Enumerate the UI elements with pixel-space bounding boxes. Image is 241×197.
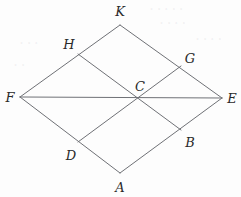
- vertex-label-c: C: [135, 80, 145, 93]
- vertex-label-e: E: [227, 92, 237, 105]
- segment-H-B: [78, 54, 181, 130]
- segments-group: [20, 25, 222, 173]
- vertex-label-g: G: [185, 52, 195, 65]
- vertex-label-h: H: [63, 38, 74, 51]
- geometry-figure: • • • • •• • • •• • •• • • •• • KEAFHGBD…: [0, 0, 241, 197]
- geometry-canvas: [0, 0, 241, 197]
- vertex-label-k: K: [115, 5, 125, 18]
- segment-D-G: [78, 66, 181, 142]
- vertex-label-b: B: [185, 136, 195, 149]
- vertex-label-d: D: [66, 149, 76, 162]
- side-E-A: [120, 98, 222, 173]
- diagonal-F-E: [20, 97, 222, 98]
- vertex-label-f: F: [5, 91, 14, 104]
- vertex-label-a: A: [115, 181, 124, 194]
